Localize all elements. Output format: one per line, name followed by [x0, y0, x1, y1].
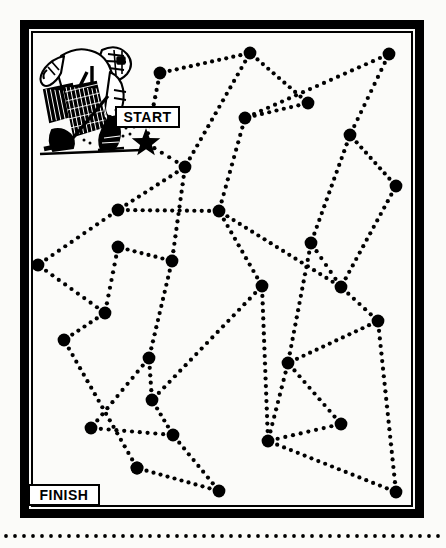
maze-node[interactable]	[256, 280, 269, 293]
maze-node[interactable]	[305, 237, 318, 250]
maze-canvas[interactable]	[0, 0, 446, 548]
maze-node[interactable]	[390, 486, 403, 499]
maze-node[interactable]	[213, 205, 226, 218]
maze-node[interactable]	[335, 418, 348, 431]
maze-node[interactable]	[58, 334, 71, 347]
dotted-rule	[4, 534, 440, 538]
maze-node[interactable]	[131, 462, 144, 475]
hockey-goalie-player	[40, 47, 142, 154]
maze-node[interactable]	[146, 394, 159, 407]
maze-node[interactable]	[282, 357, 295, 370]
maze-node[interactable]	[112, 204, 125, 217]
maze-node[interactable]	[262, 435, 275, 448]
maze-node[interactable]	[335, 281, 348, 294]
maze-node[interactable]	[239, 112, 252, 125]
maze-node[interactable]	[154, 67, 167, 80]
maze-node[interactable]	[167, 429, 180, 442]
maze-node[interactable]	[179, 161, 192, 174]
maze-node[interactable]	[166, 255, 179, 268]
maze-node[interactable]	[344, 129, 357, 142]
maze-node[interactable]	[383, 48, 396, 61]
start-label: START	[115, 106, 180, 128]
maze-node[interactable]	[372, 315, 385, 328]
puzzle-page: START FINISH Connect-the-dots maze puzzl…	[0, 0, 446, 548]
maze-node[interactable]	[99, 307, 112, 320]
maze-node[interactable]	[32, 259, 45, 272]
maze-node[interactable]	[85, 422, 98, 435]
maze-node[interactable]	[213, 485, 226, 498]
maze-node[interactable]	[143, 352, 156, 365]
maze-node[interactable]	[302, 97, 315, 110]
maze-node[interactable]	[112, 241, 125, 254]
hockey-goalie-player	[40, 47, 142, 154]
finish-label: FINISH	[28, 484, 100, 506]
maze-node[interactable]	[244, 47, 257, 60]
maze-node[interactable]	[390, 180, 403, 193]
